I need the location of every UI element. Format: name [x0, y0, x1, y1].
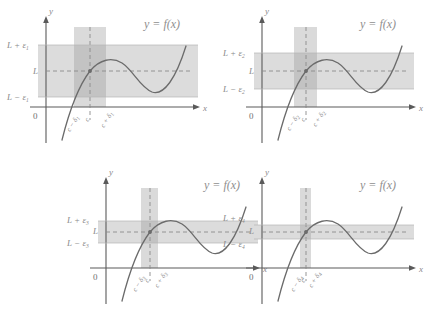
y-axis-label: y — [48, 6, 53, 16]
epsilon-lower-label: L − ε2 — [222, 84, 245, 95]
tick-label-left: c − δ3 — [131, 274, 148, 293]
function-label: y = f(x) — [359, 17, 396, 31]
y-axis-arrow — [103, 177, 109, 184]
epsilon-lower-label: L − ε4 — [222, 239, 245, 250]
function-label: y = f(x) — [359, 178, 396, 192]
epsilon-lower-label: L − ε1 — [6, 92, 29, 103]
x-axis-arrow — [193, 104, 200, 110]
limit-label: L — [248, 66, 254, 76]
y-axis-arrow — [259, 177, 265, 184]
y-axis-label: y — [264, 6, 269, 16]
tick-label-right: c + δ3 — [153, 270, 170, 289]
origin-label: 0 — [33, 111, 38, 121]
limit-label: L — [92, 226, 98, 236]
function-label: y = f(x) — [143, 17, 180, 31]
limit-label: L — [248, 226, 254, 236]
limit-label: L — [32, 66, 38, 76]
epsilon-delta-limit-figure: y = f(x) y x 0 L + ε1 L L − ε1 c − δ1 c … — [0, 0, 431, 322]
limit-point — [304, 230, 308, 234]
epsilon-upper-label: L + ε4 — [222, 213, 245, 224]
y-axis-label: y — [264, 167, 269, 177]
limit-point — [304, 69, 308, 73]
limit-point — [148, 230, 152, 234]
tick-label-right: c + δ4 — [307, 270, 324, 289]
origin-label: 0 — [93, 272, 98, 282]
tick-label-left: c − δ1 — [65, 114, 82, 133]
y-axis-arrow — [43, 16, 49, 23]
x-axis-label: x — [418, 264, 423, 274]
tick-label-center: c — [299, 115, 308, 123]
panel-1-plot: y = f(x) y x 0 L + ε1 L L − ε1 c − δ1 c … — [0, 0, 215, 161]
tick-label-right: c + δ1 — [99, 110, 116, 129]
x-axis-label: x — [418, 103, 423, 113]
tick-label-left: c − δ2 — [285, 113, 302, 132]
epsilon-upper-label: L + ε1 — [6, 40, 29, 51]
x-axis-label: x — [202, 103, 207, 113]
tick-label-center: c — [143, 276, 152, 284]
epsilon-upper-label: L + ε2 — [222, 48, 245, 59]
limit-point — [88, 69, 92, 73]
y-axis-label: y — [108, 167, 113, 177]
panel-4-plot: y = f(x) y x 0 L + ε4 L L − ε4 c − δ4 c … — [216, 161, 431, 322]
x-axis-arrow — [409, 265, 416, 271]
tick-label-center: c — [83, 115, 92, 123]
origin-label: 0 — [249, 272, 254, 282]
panel-bottom-right: y = f(x) y x 0 L + ε4 L L − ε4 c − δ4 c … — [216, 161, 431, 322]
y-axis-arrow — [259, 16, 265, 23]
epsilon-upper-label: L + ε3 — [66, 215, 89, 226]
tick-label-right: c + δ2 — [311, 109, 328, 128]
origin-label: 0 — [249, 111, 254, 121]
panel-top-left: y = f(x) y x 0 L + ε1 L L − ε1 c − δ1 c … — [0, 0, 215, 161]
x-axis-arrow — [409, 104, 416, 110]
panel-top-right: y = f(x) y x 0 L + ε2 L L − ε2 c − δ2 c … — [216, 0, 431, 161]
tick-label-left: c − δ4 — [289, 274, 306, 293]
panel-2-plot: y = f(x) y x 0 L + ε2 L L − ε2 c − δ2 c … — [216, 0, 431, 161]
epsilon-lower-label: L − ε3 — [66, 238, 89, 249]
